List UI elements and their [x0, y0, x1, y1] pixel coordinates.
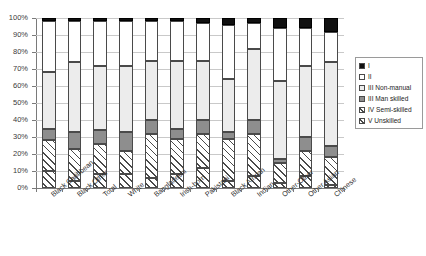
y-tick-mark	[32, 18, 36, 19]
legend-item[interactable]: V Unskilled	[359, 115, 420, 126]
chart-legend: IIIIII Non-manualIII Man skilledIV Semi-…	[355, 57, 423, 129]
x-tick-label: Black Caribbean	[49, 158, 95, 199]
y-tick-mark	[32, 137, 36, 138]
x-tick-label: Pakistani	[203, 173, 231, 199]
legend-item[interactable]: IV Semi-skilled	[359, 104, 420, 115]
x-tick-mark	[164, 188, 165, 192]
y-tick-mark	[32, 103, 36, 104]
legend-item[interactable]: III Non-manual	[359, 82, 420, 93]
legend-label: I	[368, 62, 370, 69]
x-tick-mark	[36, 188, 37, 192]
x-tick-mark	[87, 188, 88, 192]
y-tick-mark	[32, 86, 36, 87]
y-tick-mark	[32, 69, 36, 70]
x-tick-mark	[293, 188, 294, 192]
x-tick-mark	[344, 188, 345, 192]
x-tick-mark	[62, 188, 63, 192]
x-tick-mark	[190, 188, 191, 192]
legend-swatch-icon	[359, 85, 365, 91]
x-tick-mark	[139, 188, 140, 192]
legend-swatch-icon	[359, 118, 365, 124]
y-tick-mark	[32, 120, 36, 121]
legend-label: IV Semi-skilled	[368, 106, 412, 113]
x-tick-mark	[267, 188, 268, 192]
legend-swatch-icon	[359, 96, 365, 102]
y-tick-mark	[32, 171, 36, 172]
legend-item[interactable]: I	[359, 60, 420, 71]
legend-swatch-icon	[359, 74, 365, 80]
legend-label: III Man skilled	[368, 95, 408, 102]
stacked-bar-chart: 0%10%20%30%40%50%60%70%80%90%100% Black …	[0, 0, 426, 256]
legend-item[interactable]: III Man skilled	[359, 93, 420, 104]
x-tick-mark	[216, 188, 217, 192]
x-tick-mark	[241, 188, 242, 192]
x-tick-label: Indian	[255, 179, 276, 198]
y-tick-mark	[32, 52, 36, 53]
legend-label: II	[368, 73, 372, 80]
legend-label: V Unskilled	[368, 117, 401, 124]
legend-swatch-icon	[359, 63, 365, 69]
x-tick-label: Total	[101, 182, 118, 199]
x-tick-mark	[318, 188, 319, 192]
x-tick-mark	[113, 188, 114, 192]
legend-swatch-icon	[359, 107, 365, 113]
x-tick-label: White	[126, 180, 146, 199]
legend-label: III Non-manual	[368, 84, 411, 91]
y-tick-mark	[32, 154, 36, 155]
legend-item[interactable]: II	[359, 71, 420, 82]
y-tick-mark	[32, 35, 36, 36]
